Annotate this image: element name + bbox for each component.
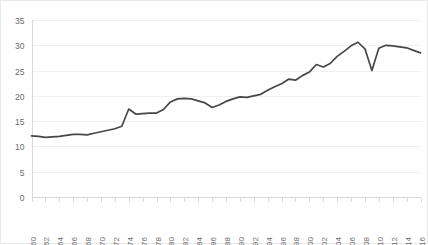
x-tick-label: 1968 — [84, 236, 93, 245]
y-tick-label: 5 — [20, 168, 25, 178]
line-chart: 05101520253035 1960196219641966196819701… — [1, 1, 428, 245]
x-tick-label: 2010 — [376, 236, 385, 245]
y-tick-label: 35 — [15, 16, 25, 26]
x-tick-label: 2008 — [362, 236, 371, 245]
x-tick-label: 2006 — [348, 236, 357, 245]
x-tick-label: 1988 — [223, 236, 232, 245]
x-tick-label: 2014 — [404, 236, 413, 245]
y-tick-label: 30 — [15, 41, 25, 51]
x-tick-label: 1972 — [112, 236, 121, 245]
y-tick-label: 20 — [15, 92, 25, 102]
x-tick-label: 1960 — [29, 236, 38, 245]
x-tick-label: 1980 — [167, 236, 176, 245]
x-tick-label: 1986 — [209, 236, 218, 245]
x-tick-label: 1982 — [181, 236, 190, 245]
x-tick-label: 1994 — [265, 236, 274, 245]
x-tick-label: 1996 — [279, 236, 288, 245]
x-tick-label: 2004 — [334, 236, 343, 245]
y-tick-label: 0 — [20, 193, 25, 203]
x-tick-label: 1978 — [154, 236, 163, 245]
x-tick-label: 1990 — [237, 236, 246, 245]
x-tick-label: 1998 — [292, 236, 301, 245]
x-tick-label: 2012 — [390, 236, 399, 245]
x-tick-label: 1966 — [70, 236, 79, 245]
x-tick-label: 2002 — [320, 236, 329, 245]
x-axis-tick-marks — [33, 198, 422, 202]
x-tick-label: 1970 — [98, 236, 107, 245]
y-tick-label: 15 — [15, 117, 25, 127]
x-tick-label: 2000 — [306, 236, 315, 245]
y-tick-label: 25 — [15, 67, 25, 77]
x-tick-label: 1984 — [195, 236, 204, 245]
x-tick-label: 1962 — [42, 236, 51, 245]
x-tick-label: 2016 — [418, 236, 427, 245]
x-axis-tick-labels: 1960196219641966196819701972197419761978… — [29, 236, 427, 245]
y-axis-tick-labels: 05101520253035 — [15, 16, 25, 203]
y-tick-label: 10 — [15, 142, 25, 152]
x-tick-label: 1992 — [251, 236, 260, 245]
gridlines — [32, 21, 421, 173]
x-tick-label: 1976 — [140, 236, 149, 245]
x-tick-label: 1964 — [56, 236, 65, 245]
x-tick-label: 1974 — [126, 236, 135, 245]
data-series-line — [32, 42, 421, 137]
